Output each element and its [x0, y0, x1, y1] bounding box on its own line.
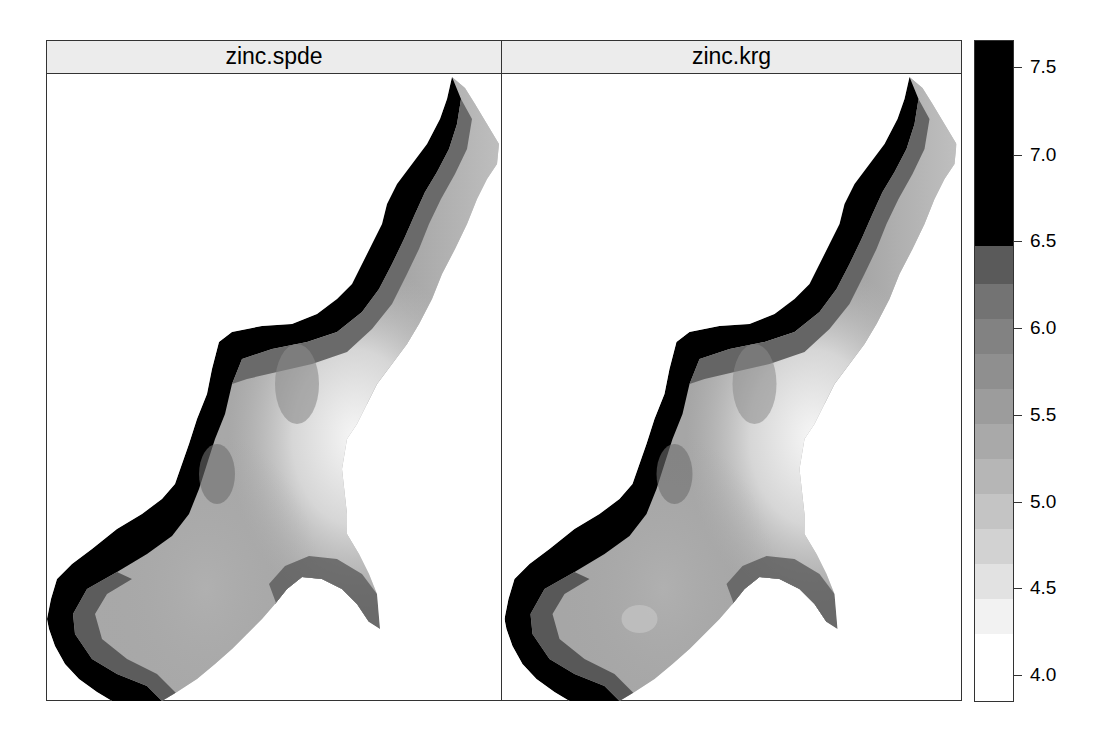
panel-zinc-spde: zinc.spde [46, 40, 502, 701]
colorbar-tick-5-0 [1014, 502, 1022, 503]
colorbar-label-7-0: 7.0 [1030, 145, 1056, 165]
map-zinc-spde [47, 74, 501, 700]
colorbar-tick-4-0 [1014, 675, 1022, 676]
colorbar-label-4-5: 4.5 [1030, 578, 1056, 598]
colorbar-tick-4-5 [1014, 588, 1022, 589]
colorbar-label-6-5: 6.5 [1030, 231, 1056, 251]
colorbar-tick-6-5 [1014, 241, 1022, 242]
colorbar-label-5-0: 5.0 [1030, 492, 1056, 512]
map-zinc-krg [502, 74, 961, 700]
colorbar-label-4-0: 4.0 [1030, 665, 1056, 685]
colorbar-tick-7-5 [1014, 67, 1022, 68]
panel-zinc-krg: zinc.krg [501, 40, 962, 701]
colorbar [974, 40, 1014, 702]
colorbar-label-7-5: 7.5 [1030, 57, 1056, 77]
panel-title-zinc-spde: zinc.spde [47, 41, 501, 74]
colorbar-label-5-5: 5.5 [1030, 405, 1056, 425]
colorbar-label-6-0: 6.0 [1030, 318, 1056, 338]
colorbar-tick-7-0 [1014, 155, 1022, 156]
colorbar-tick-6-0 [1014, 328, 1022, 329]
panel-title-zinc-krg: zinc.krg [502, 41, 961, 74]
colorbar-tick-5-5 [1014, 415, 1022, 416]
